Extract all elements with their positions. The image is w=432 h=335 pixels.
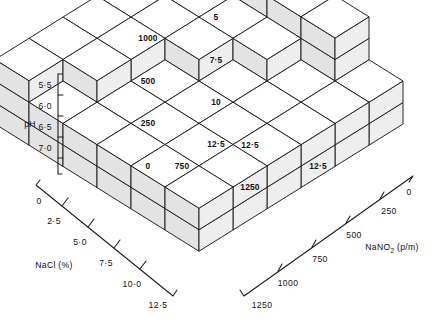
cell-label-g-right: 1250 (240, 182, 260, 192)
nacl-axis-title: NaCl (%) (35, 260, 72, 270)
nacl-tick-2 (88, 219, 94, 227)
cell-label-e-left: 12·5 (207, 139, 225, 149)
nano2-axis-title-tail: (p/m) (394, 242, 418, 252)
cell-label-g-left: 12·5 (309, 161, 327, 171)
cell-label-b-right: 1000 (138, 33, 158, 43)
nacl-tick-label-3: 7·5 (99, 258, 113, 268)
nacl-tick-label-1: 2·5 (47, 216, 61, 226)
cell-label-d-right: 250 (141, 118, 156, 128)
ph-tick-label-3: 7·0 (38, 143, 52, 153)
ph-axis-title: pH (24, 119, 36, 129)
nacl-tick-label-5: 12·5 (149, 300, 168, 310)
nacl-tick-label-2: 5·0 (73, 237, 87, 247)
cell-label-c-left: 7·5 (210, 55, 223, 65)
cell-label-c-right: 500 (141, 76, 156, 86)
cell-label-d-left: 10 (211, 97, 221, 107)
nacl-tick-label-4: 10·0 (123, 279, 142, 289)
nano2-tick-label-0: 0 (406, 187, 411, 197)
nano2-tick-label-1: 250 (381, 206, 397, 216)
ph-tick-label-2: 6·5 (38, 122, 52, 132)
nano2-axis-title: NaNO2 (p/m) (365, 242, 418, 254)
nano2-axis-title-main: NaNO (365, 242, 390, 252)
block-diagram-svg: 5·5 6·0 6·5 7·0 pH 0 2·5 5·0 7·5 10·0 12… (0, 0, 432, 335)
ph-tick-label-1: 6·0 (38, 101, 52, 111)
nacl-tick-label-0: 0 (36, 196, 41, 206)
cell-label-f-left: 12·5 (241, 140, 259, 150)
cell-label-a-right: 1250 (138, 0, 158, 1)
nacl-tick-4 (140, 261, 146, 269)
nano2-tick-label-3: 750 (312, 254, 328, 264)
nano2-tick-label-2: 500 (346, 230, 362, 240)
cell-label-e-right: 0 (146, 161, 151, 171)
nano2-tick-label-5: 1250 (252, 300, 273, 310)
cell-label-f-right: 750 (175, 161, 190, 171)
figure-canvas: 5·5 6·0 6·5 7·0 pH 0 2·5 5·0 7·5 10·0 12… (0, 0, 432, 335)
nano2-tick-label-4: 1000 (278, 278, 299, 288)
block-stack-group (0, 0, 403, 251)
nacl-tick-1 (62, 198, 68, 206)
ph-tick-label-0: 5·5 (38, 80, 52, 90)
nacl-tick-3 (114, 240, 120, 248)
cell-label-b-left: 5 (214, 12, 219, 22)
